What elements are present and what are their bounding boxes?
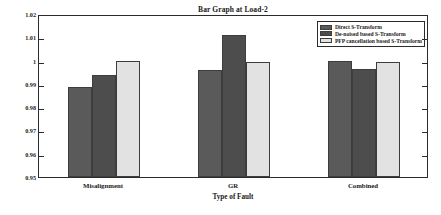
x-tick-label: Combined	[348, 182, 378, 190]
bar	[246, 62, 270, 177]
chart-title: Bar Graph at Load-2	[38, 5, 428, 14]
y-tick-mark	[422, 132, 427, 133]
bar	[328, 61, 352, 177]
y-tick-label: 0.96	[2, 152, 36, 158]
legend-label: Direct S-Transform	[335, 24, 382, 30]
legend-swatch	[320, 25, 332, 30]
plot-area: Direct S-TransformDe-noised based S-Tran…	[38, 15, 428, 178]
y-tick-mark	[39, 39, 44, 40]
bar	[198, 70, 222, 177]
y-tick-mark	[39, 132, 44, 133]
legend-item: De-noised based S-Transform	[320, 31, 422, 37]
y-tick-label: 0.97	[2, 128, 36, 134]
x-tick-label: GR	[228, 182, 238, 190]
y-tick-mark	[422, 156, 427, 157]
y-tick-label: 1.01	[2, 35, 36, 41]
legend-item: PFP cancellation based S-Transform	[320, 37, 422, 43]
y-tick-label: 0.98	[2, 105, 36, 111]
bar	[68, 87, 92, 177]
legend-item: Direct S-Transform	[320, 24, 422, 30]
y-tick-mark	[422, 86, 427, 87]
legend-label: PFP cancellation based S-Transform	[335, 38, 422, 44]
y-tick-label: 1	[2, 59, 36, 65]
bar	[92, 75, 116, 177]
bar	[352, 69, 376, 177]
y-tick-label: 0.99	[2, 82, 36, 88]
x-tick-label: Misalignment	[83, 182, 123, 190]
y-tick-mark	[39, 86, 44, 87]
legend-swatch	[320, 38, 332, 43]
y-tick-mark	[39, 109, 44, 110]
y-tick-label: 1.02	[2, 12, 36, 18]
y-tick-mark	[422, 39, 427, 40]
bar	[222, 35, 246, 178]
y-axis: 1.021.0110.990.980.970.960.95	[0, 0, 36, 215]
legend-label: De-noised based S-Transform	[335, 31, 406, 37]
y-tick-mark	[39, 63, 44, 64]
bar	[116, 61, 140, 177]
y-tick-mark	[422, 109, 427, 110]
y-tick-mark	[39, 156, 44, 157]
legend-swatch	[320, 31, 332, 36]
bar	[376, 62, 400, 177]
y-tick-mark	[422, 63, 427, 64]
chart-legend: Direct S-TransformDe-noised based S-Tran…	[317, 21, 425, 47]
bar-chart-figure: Bar Graph at Load-2 1.021.0110.990.980.9…	[0, 0, 441, 215]
x-axis-title: Type of Fault	[38, 193, 428, 202]
y-tick-label: 0.95	[2, 175, 36, 181]
